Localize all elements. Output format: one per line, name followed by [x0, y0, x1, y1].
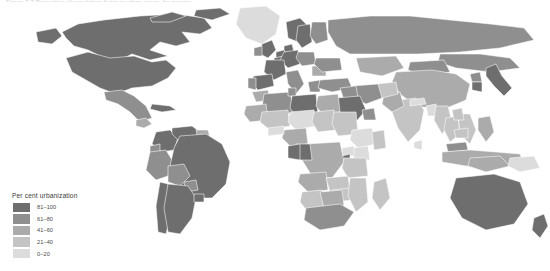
legend-swatch [12, 202, 31, 213]
legend-label: 61–80 [37, 216, 53, 222]
country-sri-lanka[interactable] [414, 140, 422, 150]
country-tunisia[interactable] [288, 88, 296, 96]
map-figure: Figure 3.2 Proportion of population livi… [0, 0, 550, 271]
legend-row: 0–20 [8, 248, 138, 260]
country-burkina-faso[interactable] [268, 126, 284, 136]
country-laos[interactable] [452, 108, 464, 120]
country-tanzania[interactable] [342, 158, 368, 178]
legend-swatch [12, 248, 31, 259]
legend: Per cent urbanization 81–10061–8041–6021… [8, 192, 138, 259]
legend-swatch [12, 236, 31, 247]
country-south-korea[interactable] [472, 82, 482, 92]
country-cambodia[interactable] [454, 128, 468, 138]
country-uruguay[interactable] [194, 194, 204, 202]
country-somalia[interactable] [372, 130, 386, 150]
legend-label: 0–20 [37, 251, 50, 257]
legend-row: 81–100 [8, 202, 138, 214]
country-north-korea[interactable] [470, 72, 482, 82]
legend-swatch [12, 225, 31, 236]
legend-row: 61–80 [8, 213, 138, 225]
country-greece[interactable] [308, 80, 320, 92]
legend-label: 21–40 [37, 239, 53, 245]
country-portugal[interactable] [248, 78, 256, 90]
legend-label: 41–60 [37, 227, 53, 233]
legend-label: 81–100 [37, 204, 56, 210]
legend-row: 41–60 [8, 225, 138, 237]
legend-row: 21–40 [8, 236, 138, 248]
legend-title: Per cent urbanization [12, 192, 138, 199]
legend-swatch [12, 213, 31, 224]
country-oman[interactable] [362, 108, 376, 120]
country-gabon[interactable] [288, 144, 300, 160]
legend-items: 81–10061–8041–6021–400–20 [8, 202, 138, 260]
country-ireland[interactable] [254, 46, 262, 56]
